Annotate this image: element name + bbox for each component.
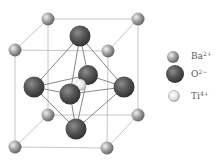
ba-ion bbox=[9, 141, 22, 154]
ba-ion bbox=[132, 13, 145, 26]
ba-ion bbox=[42, 109, 55, 122]
ba-ion bbox=[101, 142, 114, 155]
cube-edge bbox=[107, 51, 108, 148]
legend-charge: 2+ bbox=[203, 50, 212, 57]
o-ion bbox=[70, 26, 91, 47]
legend-label-o: O2− bbox=[191, 69, 207, 79]
o-ion bbox=[114, 77, 135, 98]
cube-edge bbox=[15, 19, 48, 50]
crystal-structure-diagram bbox=[0, 0, 220, 168]
legend-ti-sphere bbox=[169, 91, 180, 102]
legend-symbol: Ti bbox=[191, 91, 200, 101]
o-ion bbox=[66, 119, 87, 140]
legend-charge: 2− bbox=[198, 68, 207, 75]
legend-label-ti: Ti4+ bbox=[191, 91, 209, 101]
legend-o-sphere bbox=[166, 65, 184, 83]
cube-edge bbox=[107, 115, 138, 148]
legend-ba-sphere bbox=[167, 51, 179, 63]
legend-symbol: Ba bbox=[191, 51, 203, 61]
legend-charge: 4+ bbox=[200, 90, 209, 97]
ba-ion bbox=[132, 109, 145, 122]
cube-edge bbox=[15, 147, 107, 148]
cube-edge bbox=[108, 19, 138, 51]
ba-ion bbox=[102, 45, 115, 58]
cube-edge bbox=[15, 50, 108, 51]
o-ion bbox=[24, 77, 45, 98]
legend-label-ba: Ba2+ bbox=[191, 51, 212, 61]
o-ion bbox=[60, 84, 81, 105]
ba-ion bbox=[9, 44, 22, 57]
cube-edge bbox=[15, 115, 48, 147]
ba-ion bbox=[42, 13, 55, 26]
